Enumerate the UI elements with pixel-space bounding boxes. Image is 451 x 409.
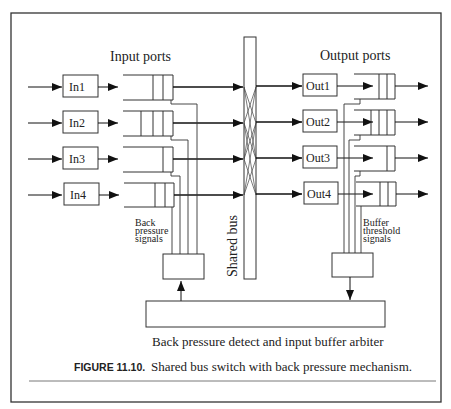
back-pressure-detector-box: [163, 254, 204, 279]
output-row-2: Out2: [256, 110, 428, 135]
arbiter-label: Back pressure detect and input buffer ar…: [152, 334, 384, 349]
output-row-4: Out4: [256, 182, 428, 206]
svg-text:In2: In2: [69, 116, 85, 130]
figure-caption-text: Shared bus switch with back pressure mec…: [151, 359, 412, 374]
input-row-1: In1: [28, 75, 243, 100]
buffer-threshold-detector-box: [332, 253, 373, 277]
svg-text:In4: In4: [70, 188, 86, 202]
arbiter-box: [146, 301, 385, 327]
input-buffer: [123, 75, 173, 100]
buffer-threshold-label: Buffer threshold signals: [363, 217, 400, 244]
shared-bus-label: Shared bus: [225, 215, 240, 277]
output-row-3: Out3: [256, 146, 428, 171]
svg-text:Out3: Out3: [306, 151, 330, 165]
output-ports-title: Output ports: [320, 48, 390, 63]
input-buffer: [123, 111, 173, 136]
input-buffer: [123, 147, 173, 172]
svg-text:signals: signals: [135, 233, 163, 244]
svg-text:Out1: Out1: [306, 79, 330, 93]
output-row-1: Out1: [256, 74, 428, 99]
svg-text:signals: signals: [363, 233, 391, 244]
svg-text:Out4: Out4: [307, 187, 331, 201]
back-pressure-label: Back pressure signals: [135, 217, 169, 244]
input-row-2: In2: [28, 111, 243, 136]
input-buffer: [124, 183, 174, 207]
input-row-3: In3: [28, 147, 243, 172]
svg-text:Out2: Out2: [306, 115, 330, 129]
shared-bus-switch-diagram: Input ports Output ports In1 In2 In3: [0, 0, 451, 409]
input-ports-title: Input ports: [110, 49, 171, 64]
input-row-4: In4: [28, 183, 243, 207]
figure-caption-label: FIGURE 11.10.: [74, 361, 145, 373]
svg-text:In1: In1: [69, 80, 85, 94]
svg-text:In3: In3: [69, 152, 85, 166]
